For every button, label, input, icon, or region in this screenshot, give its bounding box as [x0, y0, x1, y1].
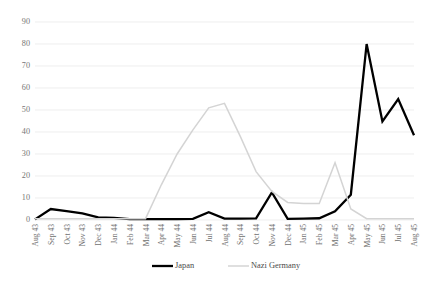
gridlines — [35, 22, 414, 220]
y-axis-tick-labels: 0102030405060708090 — [22, 17, 30, 224]
x-axis-tick-label: May 44 — [173, 224, 182, 248]
x-axis-tick-label: Nov 44 — [268, 224, 277, 247]
x-axis-tick-label: Aug 43 — [31, 224, 40, 247]
x-axis-tick-label: Mar 44 — [142, 224, 151, 246]
series-line-nazi-germany — [35, 103, 414, 218]
legend-label-japan: Japan — [175, 261, 195, 270]
y-axis-tick-label: 10 — [22, 193, 30, 202]
x-axis-tick-label: Jul 45 — [394, 224, 403, 243]
x-axis-tick-label: Feb 45 — [315, 224, 324, 245]
x-axis-tick-label: Aug 45 — [410, 224, 419, 247]
x-axis-tick-label: Jan 44 — [110, 224, 119, 244]
x-axis-tick-label: Apr 45 — [347, 224, 356, 246]
chart-canvas: 0102030405060708090 Aug 43Sep 43Oct 43No… — [0, 0, 423, 282]
y-axis-tick-label: 0 — [26, 215, 30, 224]
x-axis-tick-label: Sep 44 — [236, 224, 245, 245]
x-axis-tick-label: Aug 44 — [221, 224, 230, 247]
x-axis-tick-labels: Aug 43Sep 43Oct 43Nov 43Dec 43Jan 44Feb … — [31, 224, 419, 248]
x-axis-tick-label: Oct 44 — [252, 224, 261, 245]
x-axis-tick-label: May 45 — [363, 224, 372, 248]
series-line-japan — [35, 44, 414, 219]
x-axis-tick-label: Dec 43 — [94, 224, 103, 246]
x-axis-tick-label: Feb 44 — [126, 224, 135, 245]
y-axis-tick-label: 20 — [22, 171, 30, 180]
x-axis-tick-label: Dec 44 — [284, 224, 293, 246]
x-axis-tick-label: Nov 43 — [78, 224, 87, 247]
x-axis-tick-label: Oct 43 — [63, 224, 72, 245]
chart-legend: JapanNazi Germany — [152, 261, 301, 270]
y-axis-tick-label: 30 — [22, 149, 30, 158]
x-axis-tick-label: Apr 44 — [157, 224, 166, 246]
x-axis-tick-label: Sep 43 — [47, 224, 56, 245]
x-axis-tick-label: Jul 44 — [205, 224, 214, 243]
y-axis-tick-label: 90 — [22, 17, 30, 26]
x-axis-tick-label: Mar 45 — [331, 224, 340, 246]
x-axis-tick-label: Jun 45 — [378, 224, 387, 244]
y-axis-tick-label: 70 — [22, 61, 30, 70]
line-chart: 0102030405060708090 Aug 43Sep 43Oct 43No… — [0, 0, 423, 282]
y-axis-tick-label: 80 — [22, 39, 30, 48]
x-axis-tick-label: Jan 45 — [299, 224, 308, 244]
y-axis-tick-label: 50 — [22, 105, 30, 114]
series-lines — [35, 44, 414, 219]
x-axis-tick-label: Jun 44 — [189, 224, 198, 244]
legend-label-nazi-germany: Nazi Germany — [251, 261, 301, 270]
y-axis-tick-label: 60 — [22, 83, 30, 92]
y-axis-tick-label: 40 — [22, 127, 30, 136]
